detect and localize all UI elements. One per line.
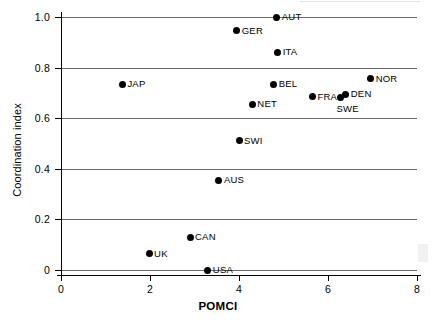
y-tick-label: 0.8 — [35, 63, 50, 74]
gridline-y — [61, 118, 417, 119]
x-tick-mark — [417, 275, 418, 281]
y-tick-label: 0.4 — [35, 164, 50, 175]
data-point-marker — [236, 137, 243, 144]
y-tick-mark — [55, 118, 61, 119]
y-tick-label: 0 — [44, 265, 50, 276]
x-tick-label: 6 — [325, 284, 331, 295]
x-tick-mark — [328, 275, 329, 281]
gridline-y — [61, 169, 417, 170]
data-point-label: SWI — [244, 136, 263, 146]
data-point-marker — [367, 75, 374, 82]
x-tick-mark — [150, 275, 151, 281]
data-point-marker — [270, 81, 277, 88]
y-tick-label: 0.6 — [35, 113, 50, 124]
scan-artifact — [300, 1, 420, 2]
y-tick-label: 0.2 — [35, 214, 50, 225]
x-tick-label: 0 — [58, 284, 64, 295]
y-axis-line — [61, 12, 62, 275]
x-axis-title: POMCI — [0, 300, 436, 312]
data-point-marker — [249, 101, 256, 108]
x-tick-mark — [61, 275, 62, 281]
scan-artifact — [418, 244, 428, 262]
data-point-marker — [215, 177, 222, 184]
data-point-label: SWE — [336, 104, 358, 114]
data-point-label: FRA — [317, 92, 337, 102]
y-axis-title: Coordination index — [11, 70, 23, 230]
y-tick-mark — [55, 17, 61, 18]
x-tick-label: 4 — [236, 284, 242, 295]
data-point-label: AUT — [282, 12, 302, 22]
y-tick-mark — [55, 68, 61, 69]
gridline-y — [61, 68, 417, 69]
data-point-marker — [273, 14, 280, 21]
x-tick-label: 2 — [147, 284, 153, 295]
y-tick-mark — [55, 270, 61, 271]
x-tick-label: 8 — [414, 284, 420, 295]
data-point-marker — [309, 93, 316, 100]
y-tick-mark — [55, 219, 61, 220]
x-tick-mark — [239, 275, 240, 281]
scatter-plot-figure: 00.20.40.60.81.0 02468 AUTGERITANORBELJA… — [0, 0, 436, 320]
data-point-label: CAN — [195, 232, 216, 242]
y-tick-mark — [55, 169, 61, 170]
gridline-y — [61, 270, 417, 271]
data-point-label: JAP — [127, 79, 145, 89]
data-point-label: UK — [154, 249, 168, 259]
data-point-label: ITA — [283, 47, 298, 57]
data-point-label: USA — [213, 265, 233, 275]
data-point-marker — [187, 234, 194, 241]
gridline-y — [61, 219, 417, 220]
data-point-marker — [274, 49, 281, 56]
data-point-label: DEN — [351, 89, 372, 99]
data-point-marker — [119, 81, 126, 88]
data-point-label: NET — [257, 99, 277, 109]
y-tick-label: 1.0 — [35, 12, 50, 23]
data-point-label: AUS — [224, 175, 244, 185]
gridline-y — [61, 17, 417, 18]
data-point-label: BEL — [279, 79, 298, 89]
data-point-marker — [204, 267, 211, 274]
data-point-label: NOR — [376, 74, 398, 84]
data-point-marker — [146, 250, 153, 257]
data-point-marker — [233, 27, 240, 34]
data-point-marker — [337, 94, 344, 101]
data-point-label: GER — [242, 26, 263, 36]
